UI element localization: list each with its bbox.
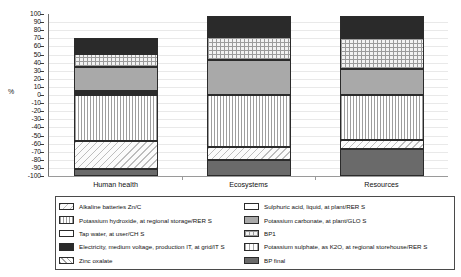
x-category-label: Human health	[61, 180, 171, 189]
y-tick-mark	[40, 79, 44, 80]
legend-column-right: Sulphuric acid, liquid, at plant/RER SPo…	[244, 200, 454, 268]
legend-swatch-icon	[59, 243, 74, 251]
legend-swatch-icon	[244, 243, 259, 251]
legend-item-label: Tap water, at user/CH S	[79, 230, 144, 237]
bar-segment[interactable]	[340, 149, 424, 176]
bar-segment[interactable]	[207, 95, 291, 147]
bar-segment[interactable]	[74, 95, 158, 141]
y-tick-mark	[40, 22, 44, 23]
y-tick-mark	[40, 55, 44, 56]
y-tick-mark	[40, 152, 44, 153]
bar-human-health[interactable]	[74, 14, 158, 176]
y-tick-mark	[40, 127, 44, 128]
legend-item-tap-water[interactable]: Tap water, at user/CH S	[59, 227, 245, 240]
legend-swatch-icon	[244, 203, 259, 211]
bar-segment[interactable]	[207, 160, 291, 176]
bar-ecosystems[interactable]	[207, 14, 291, 176]
bar-segment[interactable]	[340, 95, 424, 140]
bar-segment[interactable]	[340, 16, 424, 38]
y-tick-mark	[40, 160, 44, 161]
legend-item-label: Alkaline batteries Zn/C	[79, 203, 141, 210]
bar-segment[interactable]	[340, 140, 424, 150]
legend-item-label: Potassium hydroxide, at regional storage…	[79, 217, 212, 224]
legend-item-potassium-carbonate[interactable]: Potassium carbonate, at plant/GLO S	[244, 213, 454, 226]
legend-item-label: Sulphuric acid, liquid, at plant/RER S	[264, 203, 365, 210]
y-tick-mark	[40, 111, 44, 112]
bar-segment[interactable]	[74, 38, 158, 53]
legend-item-label: Zinc oxalate	[79, 257, 112, 264]
bar-segment[interactable]	[207, 60, 291, 95]
y-tick-mark	[40, 14, 44, 15]
legend-item-label: Potassium sulphate, as K2O, at regional …	[264, 243, 427, 250]
legend-item-electricity[interactable]: Electricity, medium voltage, production …	[59, 240, 245, 253]
bar-segment[interactable]	[207, 147, 291, 160]
legend-swatch-icon	[244, 257, 259, 265]
y-tick-mark	[40, 119, 44, 120]
x-axis-line	[48, 176, 448, 177]
chart-root: % 1009080706050403020100-10-20-30-40-50-…	[0, 0, 461, 277]
legend-item-alkaline-batteries[interactable]: Alkaline batteries Zn/C	[59, 200, 245, 213]
legend-item-sulphuric-acid[interactable]: Sulphuric acid, liquid, at plant/RER S	[244, 200, 454, 213]
legend-swatch-icon	[59, 203, 74, 211]
legend-column-left: Alkaline batteries Zn/CPotassium hydroxi…	[59, 200, 245, 268]
y-tick-mark	[40, 136, 44, 137]
legend-item-zinc-oxalate[interactable]: Zinc oxalate	[59, 254, 245, 267]
bar-segment[interactable]	[74, 67, 158, 90]
y-tick-mark	[40, 71, 44, 72]
legend-item-label: Potassium carbonate, at plant/GLO S	[264, 217, 367, 224]
y-tick-mark	[40, 95, 44, 96]
legend-swatch-icon	[59, 257, 74, 265]
bar-segment[interactable]	[74, 169, 158, 176]
bar-segment[interactable]	[340, 69, 424, 95]
legend-item-potassium-hydroxide[interactable]: Potassium hydroxide, at regional storage…	[59, 213, 245, 226]
legend-swatch-icon	[244, 230, 259, 238]
y-axis-line	[48, 14, 49, 176]
bar-segment[interactable]	[74, 91, 158, 93]
y-tick-mark	[40, 168, 44, 169]
y-tick-mark	[40, 87, 44, 88]
y-tick-mark	[40, 38, 44, 39]
y-tick-mark	[40, 30, 44, 31]
y-tick-mark	[40, 46, 44, 47]
x-tick-mark	[315, 176, 316, 180]
x-category-label: Resources	[327, 180, 437, 189]
bar-segment[interactable]	[340, 38, 424, 69]
y-axis-ticks: 1009080706050403020100-10-20-30-40-50-60…	[18, 14, 44, 176]
y-tick-mark	[40, 63, 44, 64]
bar-segment[interactable]	[207, 16, 291, 37]
y-axis-label: %	[4, 88, 18, 95]
legend-item-potassium-sulphate[interactable]: Potassium sulphate, as K2O, at regional …	[244, 240, 454, 253]
x-category-label: Ecosystems	[194, 180, 304, 189]
bar-resources[interactable]	[340, 14, 424, 176]
y-tick-mark	[40, 144, 44, 145]
legend-item-bp-final[interactable]: BP final	[244, 254, 454, 267]
legend-item-label: Electricity, medium voltage, production …	[79, 243, 225, 250]
y-tick-mark	[40, 176, 44, 177]
x-tick-mark	[182, 176, 183, 180]
legend-swatch-icon	[59, 230, 74, 238]
y-tick-mark	[40, 103, 44, 104]
bar-segment[interactable]	[207, 37, 291, 60]
bar-segment[interactable]	[74, 141, 158, 169]
legend-swatch-icon	[244, 216, 259, 224]
legend-item-bp1[interactable]: BP1	[244, 227, 454, 240]
plot-area: % 1009080706050403020100-10-20-30-40-50-…	[0, 0, 461, 192]
legend-item-label: BP1	[264, 230, 276, 237]
bar-segment[interactable]	[74, 54, 158, 68]
legend-item-label: BP final	[264, 257, 285, 264]
legend: Alkaline batteries Zn/CPotassium hydroxi…	[55, 196, 455, 270]
legend-swatch-icon	[59, 216, 74, 224]
